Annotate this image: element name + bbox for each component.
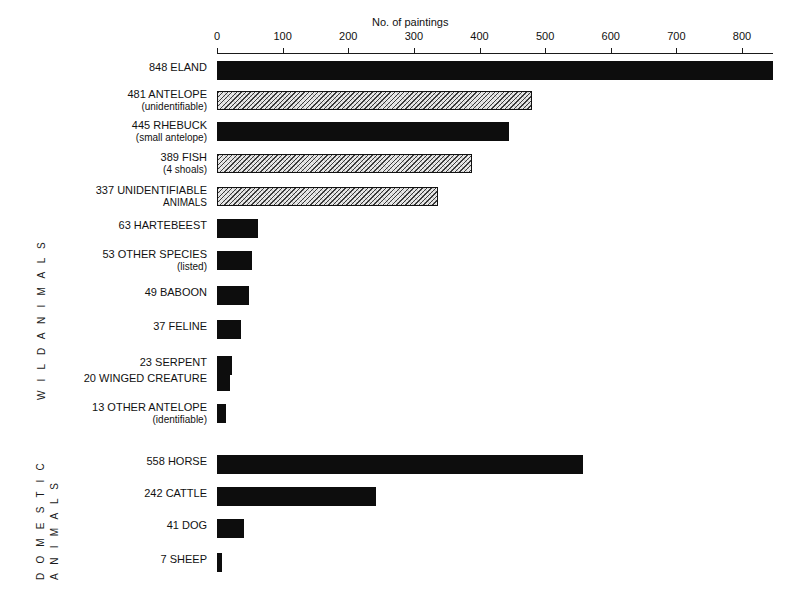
bar-row-label-main: 848 ELAND	[149, 61, 207, 73]
x-axis-tick	[545, 48, 546, 54]
x-axis-tick	[611, 48, 612, 54]
bar-row-label: 7 SHEEP	[161, 553, 207, 566]
bar-row-label-sub: (identifiable)	[92, 414, 207, 427]
bar-row-label-main: 41 DOG	[167, 519, 207, 531]
x-axis-tick	[283, 48, 284, 54]
bar-row-label: 49 BABOON	[145, 286, 207, 299]
group-label-domestic-animals-line1: D O M E S T I C	[35, 460, 46, 580]
bar-row-label-main: 389 FISH	[161, 151, 207, 163]
bar-row: 242 CATTLE	[0, 487, 801, 506]
bar-row: 7 SHEEP	[0, 553, 801, 572]
bar	[217, 372, 230, 391]
group-label-wild-animals: W I L D A N I M A L S	[36, 239, 47, 400]
bar-row-label-main: 558 HORSE	[146, 455, 207, 467]
bar-row: 20 WINGED CREATURE	[0, 372, 801, 391]
x-axis-tick	[414, 48, 415, 54]
bar-row-label: 23 SERPENT	[140, 356, 207, 369]
bar-row: 389 FISH(4 shoals)	[0, 154, 801, 173]
bar	[217, 219, 258, 238]
bar-row-label-main: 49 BABOON	[145, 286, 207, 298]
x-axis-tick-label: 500	[536, 30, 554, 42]
x-axis-tick-label: 600	[602, 30, 620, 42]
bar	[217, 91, 532, 110]
x-axis-tick	[217, 48, 218, 54]
x-axis-tick-label: 200	[339, 30, 357, 42]
x-axis-tick	[742, 48, 743, 54]
bar	[217, 320, 241, 339]
bar-row-label-main: 37 FELINE	[153, 320, 207, 332]
bar	[217, 251, 252, 270]
x-axis-tick-label: 800	[733, 30, 751, 42]
x-axis-tick-label: 700	[667, 30, 685, 42]
bar-row-label-main: 337 UNIDENTIFIABLE	[96, 184, 207, 196]
bar-row-label-main: 23 SERPENT	[140, 356, 207, 368]
bar-row: 41 DOG	[0, 519, 801, 538]
bar	[217, 187, 438, 206]
bar-row-label-main: 445 RHEBUCK	[132, 119, 207, 131]
bar-row-label-main: 481 ANTELOPE	[128, 88, 208, 100]
bar-row-label-main: 20 WINGED CREATURE	[84, 372, 207, 384]
bar-row-label-main: 242 CATTLE	[144, 487, 207, 499]
x-axis-tick-label: 0	[214, 30, 220, 42]
bar-row-label-main: 53 OTHER SPECIES	[102, 248, 207, 260]
bar	[217, 519, 244, 538]
bar-row: 558 HORSE	[0, 455, 801, 474]
bar-row-label: 242 CATTLE	[144, 487, 207, 500]
x-axis-line	[217, 53, 773, 54]
bar-row: 13 OTHER ANTELOPE(identifiable)	[0, 404, 801, 423]
x-axis-tick-label: 300	[405, 30, 423, 42]
bar	[217, 404, 226, 423]
bar-row: 53 OTHER SPECIES(listed)	[0, 251, 801, 270]
bar-row-label: 337 UNIDENTIFIABLEANIMALS	[96, 184, 207, 209]
axis-title: No. of paintings	[372, 16, 448, 28]
bar-row-label-main: 13 OTHER ANTELOPE	[92, 401, 207, 413]
bar-row: 848 ELAND	[0, 61, 801, 80]
bar-row: 63 HARTEBEEST	[0, 219, 801, 238]
bar-row-label: 13 OTHER ANTELOPE(identifiable)	[92, 401, 207, 426]
bar-row: 37 FELINE	[0, 320, 801, 339]
bar-chart: No. of paintings 01002003004005006007008…	[0, 0, 801, 606]
bar	[217, 154, 472, 173]
bar-row: 481 ANTELOPE(unidentifiable)	[0, 91, 801, 110]
bar	[217, 455, 583, 474]
bar	[217, 286, 249, 305]
bar-row-label: 389 FISH(4 shoals)	[161, 151, 207, 176]
x-axis-tick	[348, 48, 349, 54]
bar-row-label: 445 RHEBUCK(small antelope)	[132, 119, 207, 144]
bar	[217, 487, 376, 506]
x-axis-tick	[676, 48, 677, 54]
bar-row-label: 20 WINGED CREATURE	[84, 372, 207, 385]
group-label-domestic-animals-line2: A N I M A L S	[49, 480, 60, 580]
bar-row-label-sub: (small antelope)	[132, 132, 207, 145]
bar-row-label: 63 HARTEBEEST	[119, 219, 207, 232]
x-axis-tick	[480, 48, 481, 54]
bar-row: 49 BABOON	[0, 286, 801, 305]
bar-row-label: 558 HORSE	[146, 455, 207, 468]
bar-row-label-sub: ANIMALS	[96, 197, 207, 210]
bar-row-label: 848 ELAND	[149, 61, 207, 74]
bar-row: 445 RHEBUCK(small antelope)	[0, 122, 801, 141]
bar-row-label-main: 7 SHEEP	[161, 553, 207, 565]
bar	[217, 122, 509, 141]
x-axis-tick-label: 400	[470, 30, 488, 42]
bar-row-label: 481 ANTELOPE(unidentifiable)	[128, 88, 208, 113]
bar-row-label: 53 OTHER SPECIES(listed)	[102, 248, 207, 273]
bar-row: 337 UNIDENTIFIABLEANIMALS	[0, 187, 801, 206]
bar-row-label-sub: (4 shoals)	[161, 164, 207, 177]
x-axis-tick-label: 100	[273, 30, 291, 42]
bar	[217, 61, 773, 80]
bar-row-label: 37 FELINE	[153, 320, 207, 333]
bar	[217, 553, 222, 572]
bar-row-label-sub: (unidentifiable)	[128, 101, 208, 114]
bar-row-label-main: 63 HARTEBEEST	[119, 219, 207, 231]
bar-row-label: 41 DOG	[167, 519, 207, 532]
bar-row-label-sub: (listed)	[102, 261, 207, 274]
